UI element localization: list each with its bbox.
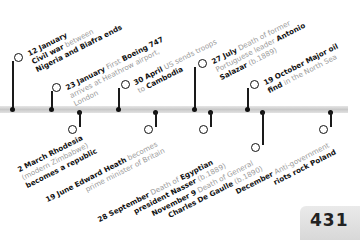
ring-2-march: [68, 125, 77, 134]
ring-19-october: [250, 80, 259, 89]
stem-november-9: [262, 112, 264, 145]
ring-30-april: [121, 80, 130, 89]
ring-19-june: [144, 125, 153, 134]
ring-28-september: [199, 125, 208, 134]
stem-28-september: [210, 112, 212, 127]
stem-19-june: [155, 112, 157, 127]
page-number-tab: 431: [300, 206, 360, 240]
ring-12-january: [14, 53, 23, 62]
stem-december: [330, 112, 332, 127]
ring-27-july: [198, 59, 207, 68]
stem-27-july: [194, 67, 196, 109]
ring-december: [319, 125, 328, 134]
stem-30-april: [118, 88, 120, 109]
marker-12-january: [10, 107, 15, 112]
ring-23-january: [52, 83, 61, 92]
stem-2-march: [79, 112, 81, 127]
ring-november-9: [251, 143, 260, 152]
marker-23-january: [49, 107, 54, 112]
marker-30-april: [116, 107, 121, 112]
stem-19-october: [247, 88, 249, 109]
marker-19-october: [245, 107, 250, 112]
stem-12-january: [12, 61, 14, 109]
page-number: 431: [310, 210, 349, 230]
marker-27-july: [192, 107, 197, 112]
